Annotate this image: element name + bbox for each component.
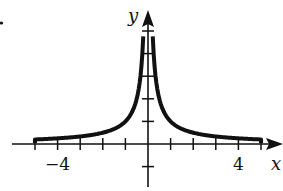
curve-right-branch: [153, 36, 261, 143]
curve-left-branch: [35, 36, 143, 143]
problem-bullet: [0, 21, 3, 24]
y-axis-label: y: [127, 5, 139, 26]
function-graph: yx−44: [0, 0, 283, 191]
x-tick-label: 4: [233, 154, 244, 174]
x-axis-label: x: [271, 153, 281, 174]
x-tick-label: −4: [45, 154, 70, 174]
